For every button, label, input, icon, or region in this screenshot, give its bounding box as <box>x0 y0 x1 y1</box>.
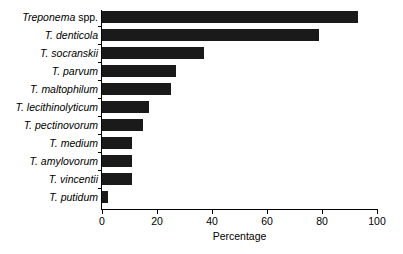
species-name-italic: T. lecithinolyticum <box>16 101 98 113</box>
bar-row <box>102 11 377 29</box>
bar-row <box>102 137 377 155</box>
bar-row <box>102 29 377 47</box>
species-name-italic: Treponema <box>22 11 75 23</box>
y-axis-category-label: T. vincentii <box>0 173 98 185</box>
species-name-italic: T. putidum <box>49 191 98 203</box>
x-axis-tick-label: 100 <box>368 215 386 227</box>
y-axis-tick-mark <box>98 26 102 27</box>
x-axis-tick-label: 40 <box>206 215 218 227</box>
bar <box>102 65 176 77</box>
species-name-italic: T. medium <box>49 137 98 149</box>
bar <box>102 29 319 41</box>
species-name-italic: T. maltophilum <box>30 83 98 95</box>
y-axis-tick-mark <box>98 188 102 189</box>
bar-row <box>102 65 377 83</box>
bar <box>102 173 132 185</box>
bar <box>102 83 171 95</box>
bar <box>102 47 204 59</box>
y-axis-category-label: T. medium <box>0 137 98 149</box>
species-name-italic: T. denticola <box>45 29 98 41</box>
species-name-italic: T. vincentii <box>49 173 98 185</box>
bar-row <box>102 47 377 65</box>
bar-row <box>102 83 377 101</box>
species-name-italic: T. amylovorum <box>30 155 98 167</box>
bar <box>102 155 132 167</box>
y-axis-category-labels: Treponema spp.T. denticolaT. socranskiiT… <box>0 11 98 209</box>
y-axis-category-label: T. lecithinolyticum <box>0 101 98 113</box>
x-axis-tick-mark <box>377 210 378 214</box>
x-axis-ticks: 020406080100 <box>102 210 377 230</box>
x-axis-title: Percentage <box>102 230 377 242</box>
y-axis-category-label: T. parvum <box>0 65 98 77</box>
y-axis-category-label: T. putidum <box>0 191 98 203</box>
y-axis-category-label: Treponema spp. <box>0 11 98 23</box>
bar <box>102 137 132 149</box>
bar <box>102 191 108 203</box>
x-axis-tick-label: 60 <box>261 215 273 227</box>
bar <box>102 101 149 113</box>
x-axis-tick-mark <box>102 210 103 214</box>
plot-area <box>102 11 377 209</box>
species-name-italic: T. parvum <box>52 65 98 77</box>
bar <box>102 119 143 131</box>
y-axis-category-label: T. maltophilum <box>0 83 98 95</box>
y-axis-category-label: T. pectinovorum <box>0 119 98 131</box>
x-axis-tick-mark <box>267 210 268 214</box>
x-axis-tick-mark <box>157 210 158 214</box>
bar <box>102 11 358 23</box>
y-axis-tick-mark <box>98 62 102 63</box>
y-axis-category-label: T. amylovorum <box>0 155 98 167</box>
y-axis-category-label: T. socranskii <box>0 47 98 59</box>
species-name-suffix: spp. <box>75 11 98 23</box>
y-axis-tick-mark <box>98 134 102 135</box>
y-axis-tick-mark <box>98 80 102 81</box>
y-axis-tick-mark <box>98 170 102 171</box>
y-axis-tick-mark <box>98 152 102 153</box>
bar-row <box>102 191 377 209</box>
x-axis-tick-label: 80 <box>316 215 328 227</box>
y-axis-category-label: T. denticola <box>0 29 98 41</box>
bar-row <box>102 119 377 137</box>
species-name-italic: T. socranskii <box>40 47 98 59</box>
x-axis-tick-label: 20 <box>151 215 163 227</box>
bar-row <box>102 101 377 119</box>
y-axis-tick-mark <box>98 44 102 45</box>
y-axis-tick-mark <box>98 116 102 117</box>
bar-row <box>102 173 377 191</box>
species-name-italic: T. pectinovorum <box>24 119 98 131</box>
x-axis-tick-label: 0 <box>99 215 105 227</box>
y-axis-tick-mark <box>98 98 102 99</box>
x-axis-tick-mark <box>212 210 213 214</box>
x-axis-tick-mark <box>322 210 323 214</box>
bar-row <box>102 155 377 173</box>
bar-chart-figure: Treponema spp.T. denticolaT. socranskiiT… <box>0 0 403 254</box>
